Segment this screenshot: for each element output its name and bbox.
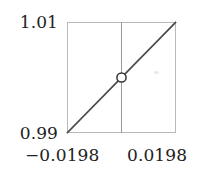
data-point-marker [117,73,126,82]
x-axis-tick-label-left: −0.0198 [25,147,99,164]
plot-area [67,22,176,133]
compression-artifact-speck [154,71,159,74]
plot-canvas [67,22,176,133]
chart-figure: 1.01 0.99 −0.0198 0.0198 [0,0,216,180]
y-axis-tick-label-bottom: 0.99 [20,125,58,142]
x-axis-tick-label-right: 0.0198 [127,147,187,164]
y-axis-tick-label-top: 1.01 [20,14,58,31]
